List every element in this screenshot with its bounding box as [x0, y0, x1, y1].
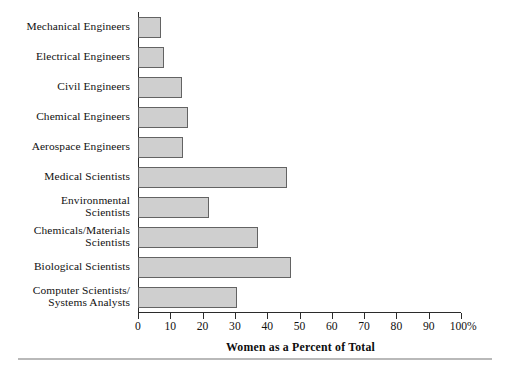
category-label: Computer Scientists/Systems Analysts [0, 284, 130, 309]
plot-area: 0102030405060708090100% [138, 12, 463, 312]
x-axis-tick-label: 30 [229, 320, 241, 333]
bar [138, 197, 209, 218]
x-axis-tick-label: 80 [391, 320, 403, 333]
category-label: Biological Scientists [0, 260, 130, 273]
bar [138, 47, 164, 68]
bar [138, 227, 258, 248]
x-axis-tick [203, 313, 204, 319]
x-axis-tick [364, 313, 365, 319]
x-axis-tick-label: 100% [450, 320, 477, 333]
category-axis-labels: Mechanical EngineersElectrical Engineers… [0, 12, 134, 312]
x-axis-tick [396, 313, 397, 319]
bar [138, 77, 182, 98]
bar [138, 287, 237, 308]
category-label: Aerospace Engineers [0, 140, 130, 153]
category-label-line: Environmental [0, 194, 130, 207]
category-label: Chemicals/MaterialsScientists [0, 224, 130, 249]
x-axis-tick-label: 10 [165, 320, 177, 333]
category-label-line: Chemical Engineers [0, 110, 130, 123]
x-axis-title: Women as a Percent of Total [138, 340, 463, 355]
category-label-line: Computer Scientists/ [0, 284, 130, 297]
category-label: Medical Scientists [0, 170, 130, 183]
x-axis-tick [300, 313, 301, 319]
x-axis-tick-label: 20 [197, 320, 209, 333]
x-axis-tick-label: 70 [358, 320, 370, 333]
bar [138, 257, 291, 278]
category-label-line: Aerospace Engineers [0, 140, 130, 153]
x-axis-tick-label: 60 [326, 320, 338, 333]
category-label: EnvironmentalScientists [0, 194, 130, 219]
bar [138, 167, 287, 188]
category-label-line: Scientists [0, 236, 130, 249]
x-axis-tick [138, 313, 139, 319]
category-label: Electrical Engineers [0, 50, 130, 63]
x-axis-tick [235, 313, 236, 319]
category-label-line: Biological Scientists [0, 260, 130, 273]
x-axis-tick [332, 313, 333, 319]
x-axis-tick-label: 40 [261, 320, 273, 333]
footer-divider [18, 358, 492, 360]
x-axis-tick-label: 90 [423, 320, 435, 333]
x-axis-tick [267, 313, 268, 319]
category-label: Civil Engineers [0, 80, 130, 93]
category-label-line: Civil Engineers [0, 80, 130, 93]
category-label-line: Mechanical Engineers [0, 20, 130, 33]
category-label-line: Medical Scientists [0, 170, 130, 183]
category-label-line: Electrical Engineers [0, 50, 130, 63]
category-label: Mechanical Engineers [0, 20, 130, 33]
category-label-line: Scientists [0, 206, 130, 219]
x-axis-tick [429, 313, 430, 319]
category-label: Chemical Engineers [0, 110, 130, 123]
category-label-line: Chemicals/Materials [0, 224, 130, 237]
x-axis-tick-label: 0 [135, 320, 141, 333]
x-axis-tick [170, 313, 171, 319]
bar [138, 137, 183, 158]
category-label-line: Systems Analysts [0, 296, 130, 309]
bar-chart-figure: Mechanical EngineersElectrical Engineers… [0, 0, 510, 372]
x-axis-tick-label: 50 [294, 320, 306, 333]
bar [138, 107, 188, 128]
x-axis-tick [461, 313, 462, 319]
bar [138, 17, 161, 38]
